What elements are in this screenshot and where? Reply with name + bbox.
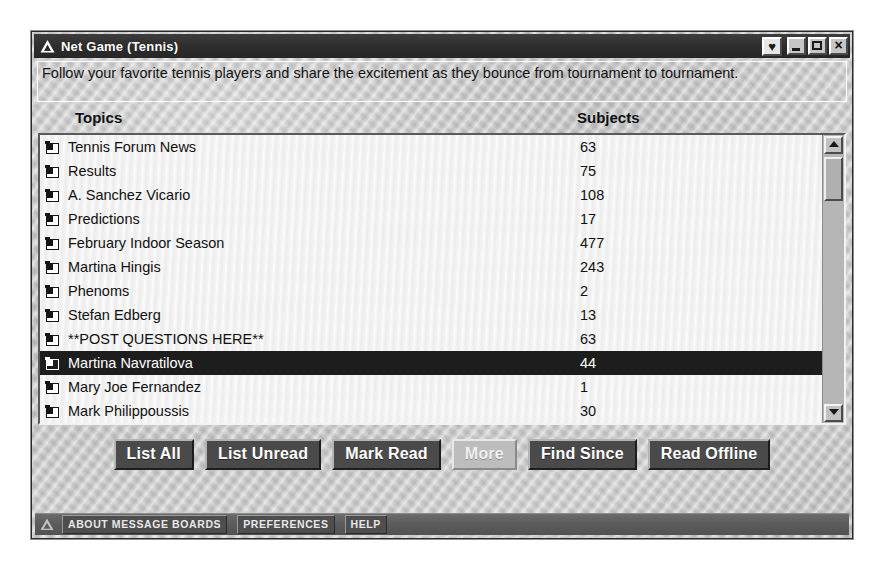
- folder-message-icon: [45, 261, 60, 274]
- folder-message-icon: [45, 213, 60, 226]
- table-row[interactable]: Stefan Edberg13: [40, 303, 822, 327]
- list-all-button[interactable]: List All: [114, 439, 194, 470]
- folder-message-icon: [45, 285, 60, 298]
- subject-count: 13: [580, 307, 596, 323]
- subject-count: 63: [580, 139, 596, 155]
- minimize-bar: [792, 48, 800, 51]
- maximize-icon[interactable]: [808, 37, 827, 55]
- subject-count: 243: [580, 259, 604, 275]
- table-row[interactable]: February Indoor Season477: [40, 231, 822, 255]
- table-row-content: Predictions17: [45, 207, 822, 231]
- find-since-button[interactable]: Find Since: [528, 439, 637, 470]
- read-offline-button[interactable]: Read Offline: [648, 439, 771, 470]
- aol-triangle-icon: [39, 517, 55, 532]
- folder-message-icon: [45, 333, 60, 346]
- column-header: Topics Subjects: [37, 105, 847, 131]
- table-row-content: Martina Navratilova44: [45, 351, 822, 375]
- subject-count: 477: [580, 235, 604, 251]
- table-row[interactable]: A. Sanchez Vicario108: [40, 183, 822, 207]
- table-row-content: Tennis Forum News63: [45, 135, 822, 159]
- table-row-content: Martina Hingis243: [45, 255, 822, 279]
- folder-message-icon: [45, 357, 60, 370]
- topic-name: Predictions: [68, 211, 140, 227]
- table-row-content: A. Sanchez Vicario108: [45, 183, 822, 207]
- subject-count: 2: [580, 283, 588, 299]
- scroll-up-arrow-glyph: [829, 141, 839, 147]
- subject-count: 63: [580, 331, 596, 347]
- table-row[interactable]: Martina Navratilova44: [40, 351, 822, 375]
- folder-flap: [47, 240, 53, 246]
- table-row-content: Mark Philippoussis30: [45, 399, 822, 423]
- table-row-content: Phenoms2: [45, 279, 822, 303]
- folder-flap: [47, 360, 53, 366]
- topic-name: Phenoms: [68, 283, 129, 299]
- folder-message-icon: [45, 141, 60, 154]
- table-row-content: Mary Joe Fernandez1: [45, 375, 822, 399]
- more-button: More: [452, 439, 517, 470]
- folder-flap: [47, 408, 53, 414]
- topic-name: Mark Philippoussis: [68, 403, 189, 419]
- folder-flap: [47, 288, 53, 294]
- folder-message-icon: [45, 309, 60, 322]
- action-button-row: List AllList UnreadMark ReadMoreFind Sin…: [32, 432, 852, 476]
- table-row-content: Results75: [45, 159, 822, 183]
- folder-flap: [47, 192, 53, 198]
- topics-list[interactable]: Tennis Forum News63Results75A. Sanchez V…: [40, 135, 822, 423]
- scroll-down-arrow-glyph: [829, 409, 839, 415]
- table-row[interactable]: Phenoms2: [40, 279, 822, 303]
- table-row[interactable]: Predictions17: [40, 207, 822, 231]
- column-header-subjects: Subjects: [577, 109, 640, 126]
- minimize-icon[interactable]: [787, 37, 806, 55]
- subject-count: 44: [580, 355, 596, 371]
- table-row[interactable]: **POST QUESTIONS HERE**63: [40, 327, 822, 351]
- table-row-content: Stefan Edberg13: [45, 303, 822, 327]
- folder-message-icon: [45, 189, 60, 202]
- table-row[interactable]: Tennis Forum News63: [40, 135, 822, 159]
- topic-name: A. Sanchez Vicario: [68, 187, 190, 203]
- table-row-content: February Indoor Season477: [45, 231, 822, 255]
- message-board-window: Net Game (Tennis) ♥ × Follow your favori…: [31, 31, 853, 539]
- help-button[interactable]: HELP: [345, 515, 387, 534]
- subject-count: 75: [580, 163, 596, 179]
- topic-name: Martina Hingis: [68, 259, 161, 275]
- heart-glyph: ♥: [764, 39, 780, 54]
- column-header-topics: Topics: [75, 109, 122, 126]
- folder-flap: [47, 264, 53, 270]
- topics-list-panel: Tennis Forum News63Results75A. Sanchez V…: [38, 133, 846, 425]
- vertical-scrollbar[interactable]: [822, 135, 844, 423]
- preferences-button[interactable]: PREFERENCES: [237, 515, 334, 534]
- topic-name: **POST QUESTIONS HERE**: [68, 331, 264, 347]
- table-row-content: **POST QUESTIONS HERE**63: [45, 327, 822, 351]
- table-row[interactable]: Results75: [40, 159, 822, 183]
- folder-message-icon: [45, 381, 60, 394]
- folder-flap: [47, 168, 53, 174]
- topic-name: Stefan Edberg: [68, 307, 161, 323]
- scroll-up-arrow-icon[interactable]: [824, 136, 843, 154]
- topic-name: Results: [68, 163, 116, 179]
- close-icon[interactable]: ×: [829, 37, 848, 55]
- heart-icon[interactable]: ♥: [762, 37, 782, 56]
- topic-name: February Indoor Season: [68, 235, 224, 251]
- title-bar[interactable]: Net Game (Tennis) ♥ ×: [34, 34, 850, 58]
- subject-count: 30: [580, 403, 596, 419]
- subject-count: 108: [580, 187, 604, 203]
- table-row[interactable]: Mary Joe Fernandez1: [40, 375, 822, 399]
- table-row[interactable]: Mark Philippoussis30: [40, 399, 822, 423]
- topic-name: Mary Joe Fernandez: [68, 379, 201, 395]
- scrollbar-thumb[interactable]: [824, 157, 843, 201]
- aol-triangle-icon: [39, 39, 56, 54]
- maximize-box: [812, 41, 822, 50]
- folder-message-icon: [45, 165, 60, 178]
- about-message-boards-button[interactable]: ABOUT MESSAGE BOARDS: [62, 515, 227, 534]
- close-glyph: ×: [831, 38, 846, 53]
- folder-flap: [47, 144, 53, 150]
- mark-read-button[interactable]: Mark Read: [332, 439, 441, 470]
- scroll-down-arrow-icon[interactable]: [824, 404, 843, 422]
- list-unread-button[interactable]: List Unread: [205, 439, 321, 470]
- window-title: Net Game (Tennis): [61, 39, 760, 54]
- topic-name: Tennis Forum News: [68, 139, 196, 155]
- subject-count: 1: [580, 379, 588, 395]
- folder-flap: [47, 216, 53, 222]
- table-row[interactable]: Martina Hingis243: [40, 255, 822, 279]
- topic-name: Martina Navratilova: [68, 355, 193, 371]
